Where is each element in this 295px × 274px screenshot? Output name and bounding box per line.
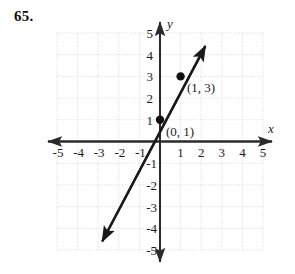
x-axis-label: x xyxy=(267,121,274,136)
point-marker-0-1 xyxy=(156,116,164,124)
y-tick-label: -3 xyxy=(146,200,157,215)
x-tick-label: -1 xyxy=(135,145,146,160)
y-axis-label: y xyxy=(165,16,173,31)
axes xyxy=(48,22,272,262)
y-tick-label: 1 xyxy=(147,113,154,128)
point-label-origin-intercept: (0, 1) xyxy=(166,124,194,139)
x-tick-label: -3 xyxy=(94,145,105,160)
x-tick-label: -2 xyxy=(114,145,125,160)
y-tick-label: 5 xyxy=(147,26,154,41)
point-label-second-point: (1, 3) xyxy=(187,80,215,95)
x-tick-label: 3 xyxy=(219,145,226,160)
y-tick-label: 4 xyxy=(147,48,154,63)
x-tick-label: -4 xyxy=(73,145,84,160)
y-tick-label: -2 xyxy=(146,178,157,193)
graph-svg: x y -5 -4 -3 -2 -1 1 2 3 4 5 5 4 3 2 1 -… xyxy=(0,0,295,274)
coordinate-graph-figure: x y -5 -4 -3 -2 -1 1 2 3 4 5 5 4 3 2 1 -… xyxy=(0,0,295,274)
y-tick-label: -5 xyxy=(146,243,157,258)
x-tick-label: 1 xyxy=(177,145,184,160)
x-tick-label: 4 xyxy=(239,145,246,160)
y-tick-label: 3 xyxy=(147,69,154,84)
x-tick-label: 2 xyxy=(198,145,205,160)
x-tick-label: 5 xyxy=(260,145,267,160)
y-tick-label: -4 xyxy=(146,221,157,236)
y-tick-label: -1 xyxy=(146,156,157,171)
x-tick-label: -5 xyxy=(53,145,64,160)
point-marker-1-3 xyxy=(176,72,184,80)
y-tick-label: 2 xyxy=(147,91,154,106)
